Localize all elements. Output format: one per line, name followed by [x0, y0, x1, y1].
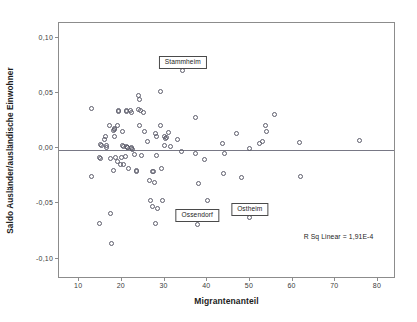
data-point — [264, 129, 269, 134]
data-point — [139, 153, 144, 158]
data-point — [260, 139, 265, 144]
data-point — [151, 169, 156, 174]
data-point — [154, 153, 159, 158]
data-point — [196, 181, 201, 186]
data-point — [103, 134, 108, 139]
data-point — [357, 138, 362, 143]
x-axis-tick — [377, 277, 378, 281]
y-axis-tick-label: -0,10 — [36, 254, 53, 261]
data-point — [159, 166, 164, 171]
data-point — [221, 171, 226, 176]
data-point — [145, 139, 150, 144]
data-point — [272, 112, 277, 117]
data-point — [137, 97, 142, 102]
data-point — [120, 129, 125, 134]
data-point — [98, 156, 103, 161]
y-axis-tick-label: 0,00 — [39, 144, 53, 151]
data-point — [179, 149, 184, 154]
data-point — [247, 146, 252, 151]
y-axis-title-text: Saldo Ausländer/ausländische Einwohner — [6, 67, 15, 233]
data-point — [109, 241, 114, 246]
y-axis-title: Saldo Ausländer/ausländische Einwohner — [4, 22, 17, 278]
x-axis-tick — [334, 277, 335, 281]
data-point — [158, 89, 163, 94]
y-axis-tick — [55, 92, 59, 93]
data-point — [263, 123, 268, 128]
data-point — [158, 123, 163, 128]
x-axis-tick — [292, 277, 293, 281]
x-axis-tick — [121, 277, 122, 281]
data-point — [115, 123, 120, 128]
data-point — [154, 134, 159, 139]
x-axis-tick-label: 20 — [117, 282, 125, 289]
scatter-chart-figure: Saldo Ausländer/ausländische Einwohner 0… — [0, 0, 417, 322]
data-point — [129, 110, 134, 115]
data-point — [175, 137, 180, 142]
x-axis-tick — [206, 277, 207, 281]
x-axis-tick-label: 40 — [202, 282, 210, 289]
x-axis-tick-label: 80 — [373, 282, 381, 289]
data-point — [153, 221, 158, 226]
point-label-callout[interactable]: Stammheim — [159, 56, 207, 69]
data-point — [193, 115, 198, 120]
y-axis-tick — [55, 147, 59, 148]
data-point — [160, 198, 165, 203]
data-point — [142, 129, 147, 134]
point-label-callout[interactable]: Ostheim — [231, 203, 268, 216]
x-axis-title: Migrantenanteil — [58, 296, 395, 306]
data-point — [134, 169, 139, 174]
x-axis-tick-label: 70 — [330, 282, 338, 289]
data-point — [132, 152, 137, 157]
x-axis-tick — [249, 277, 250, 281]
data-point — [112, 134, 117, 139]
data-point — [166, 130, 171, 135]
data-point — [168, 144, 173, 149]
data-point — [164, 135, 169, 140]
r-squared-label: R Sq Linear = 1,91E-4 — [304, 233, 374, 240]
data-point — [247, 215, 252, 220]
data-point — [108, 156, 113, 161]
plot-frame: 0,100,050,00-0,05-0,101020304050607080St… — [58, 22, 395, 278]
data-point — [89, 174, 94, 179]
data-point — [126, 166, 131, 171]
data-point — [220, 141, 225, 146]
x-axis-tick-label: 10 — [74, 282, 82, 289]
data-point — [108, 211, 113, 216]
regression-line — [59, 150, 394, 151]
data-point — [162, 143, 167, 148]
y-axis-tick-label: 0,10 — [39, 33, 53, 40]
data-point — [111, 168, 116, 173]
data-point — [137, 123, 142, 128]
x-axis-tick-label: 50 — [245, 282, 253, 289]
data-point — [239, 175, 244, 180]
data-point — [298, 174, 303, 179]
x-axis-tick — [164, 277, 165, 281]
data-point — [297, 140, 302, 145]
data-point — [205, 198, 210, 203]
data-point — [234, 131, 239, 136]
data-point — [152, 180, 157, 185]
x-axis-tick — [78, 277, 79, 281]
data-point — [202, 157, 207, 162]
point-label-callout[interactable]: Ossendorf — [176, 209, 219, 222]
data-point — [89, 106, 94, 111]
y-axis-tick-label: 0,05 — [39, 89, 53, 96]
y-axis-tick — [55, 202, 59, 203]
data-point — [123, 154, 128, 159]
data-point — [155, 206, 160, 211]
data-point — [97, 221, 102, 226]
data-point — [222, 151, 227, 156]
plot-area: 0,100,050,00-0,05-0,101020304050607080St… — [59, 23, 394, 277]
y-axis-tick — [55, 258, 59, 259]
x-axis-tick-label: 60 — [287, 282, 295, 289]
x-axis-tick-label: 30 — [159, 282, 167, 289]
data-point — [148, 198, 153, 203]
data-point — [193, 151, 198, 156]
data-point — [104, 145, 109, 150]
y-axis-tick — [55, 37, 59, 38]
data-point — [141, 110, 146, 115]
y-axis-tick-label: -0,05 — [36, 199, 53, 206]
data-point — [147, 178, 152, 183]
